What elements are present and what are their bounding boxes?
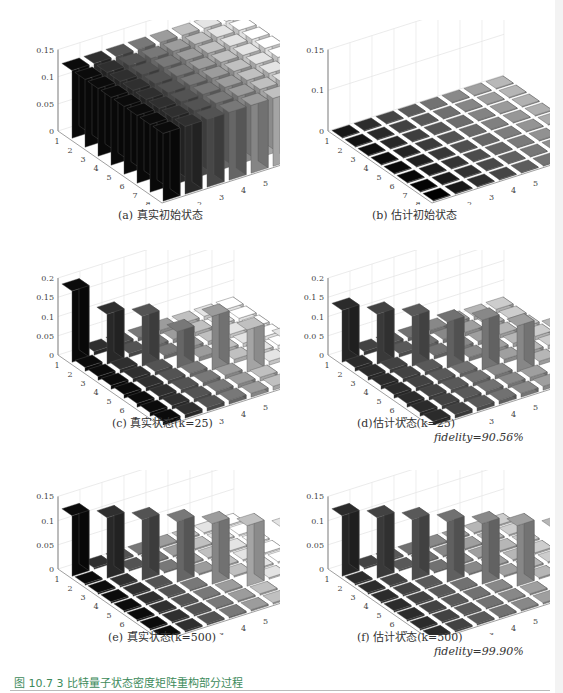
svg-text:0.1: 0.1 [311, 313, 324, 322]
svg-text:3: 3 [489, 193, 494, 202]
svg-text:0: 0 [319, 351, 324, 360]
svg-text:0.05: 0.05 [36, 541, 54, 550]
svg-text:3: 3 [219, 631, 224, 636]
svg-text:4: 4 [511, 410, 516, 419]
page-edge [555, 0, 563, 693]
subcaption-b: (b) 估计初始状态 [372, 206, 457, 222]
svg-text:3: 3 [81, 593, 86, 602]
svg-text:2: 2 [338, 146, 343, 155]
bars [332, 297, 550, 425]
svg-text:0: 0 [319, 127, 324, 136]
svg-text:1: 1 [55, 361, 60, 370]
svg-text:0.2: 0.2 [41, 274, 54, 283]
svg-text:0: 0 [49, 351, 54, 360]
svg-text:4: 4 [94, 164, 99, 173]
svg-text:0.15: 0.15 [36, 293, 54, 302]
svg-text:3: 3 [489, 417, 494, 426]
svg-text:2: 2 [68, 370, 73, 379]
svg-text:5: 5 [107, 173, 112, 182]
svg-text:5: 5 [533, 403, 538, 412]
svg-text:4: 4 [241, 624, 246, 633]
svg-text:5: 5 [263, 179, 268, 188]
svg-text:8: 8 [146, 200, 151, 206]
chart-panel-b: 00.10.151234567812345678 [300, 20, 550, 205]
bars [62, 20, 280, 201]
bar3d-chart-b: 00.10.151234567812345678 [300, 20, 550, 205]
svg-text:1: 1 [325, 575, 330, 584]
svg-text:2: 2 [467, 424, 472, 426]
svg-text:0.15: 0.15 [36, 46, 54, 55]
subcaption-e: (e) 真实状态(k=500) [108, 628, 216, 644]
bar3d-chart-e: 00.050.10.15123456781234567 [30, 470, 280, 635]
svg-text:3: 3 [219, 193, 224, 202]
svg-text:3: 3 [81, 155, 86, 164]
svg-text:3: 3 [351, 379, 356, 388]
svg-text:0.15: 0.15 [36, 492, 54, 501]
svg-text:7: 7 [403, 191, 408, 200]
svg-text:0.1: 0.1 [311, 86, 324, 95]
svg-text:4: 4 [511, 624, 516, 633]
svg-text:1: 1 [325, 361, 330, 370]
svg-text:3: 3 [219, 417, 224, 426]
svg-text:5: 5 [377, 397, 382, 406]
svg-text:5: 5 [263, 403, 268, 412]
svg-text:0.1: 0.1 [41, 517, 54, 526]
figure-caption: 图 10.7 3 比特量子状态密度矩阵重构部分过程 [14, 674, 243, 690]
svg-text:0.2: 0.2 [311, 274, 324, 283]
chart-panel-d: 00.0 50.10.1 50.21234567812345678 [300, 250, 550, 425]
svg-text:5: 5 [377, 173, 382, 182]
svg-text:0: 0 [49, 565, 54, 574]
svg-text:5: 5 [533, 617, 538, 626]
svg-text:0.15: 0.15 [306, 492, 324, 501]
svg-text:3: 3 [351, 155, 356, 164]
fidelity-f: fidelity=99.90% [434, 645, 524, 658]
svg-text:4: 4 [364, 164, 369, 173]
svg-text:0.15: 0.15 [306, 46, 324, 55]
svg-text:5: 5 [377, 611, 382, 620]
svg-text:3: 3 [489, 631, 494, 636]
chart-panel-e: 00.050.10.15123456781234567 [30, 470, 280, 635]
svg-text:0.1: 0.1 [41, 73, 54, 82]
bars [332, 503, 550, 635]
bars [62, 503, 280, 635]
svg-text:4: 4 [511, 186, 516, 195]
caption-rule [10, 690, 550, 691]
svg-text:0: 0 [49, 127, 54, 136]
svg-text:0.05: 0.05 [36, 332, 54, 341]
svg-text:1: 1 [55, 137, 60, 146]
bar3d-chart-d: 00.0 50.10.1 50.21234567812345678 [300, 250, 550, 425]
svg-text:6: 6 [390, 182, 395, 191]
subcaption-d: (d)估计状态(k=25) [357, 414, 455, 430]
svg-text:0.1 5: 0.1 5 [304, 293, 324, 302]
svg-text:5: 5 [533, 179, 538, 188]
svg-text:2: 2 [197, 200, 202, 206]
svg-text:0.1: 0.1 [41, 313, 54, 322]
svg-text:0.0 5: 0.0 5 [304, 332, 324, 341]
svg-text:2: 2 [338, 584, 343, 593]
subcaption-a: (a) 真实初始状态 [118, 206, 203, 222]
svg-text:4: 4 [364, 388, 369, 397]
svg-text:4: 4 [241, 410, 246, 419]
svg-text:4: 4 [94, 388, 99, 397]
chart-panel-f: 00.050.10.151234567812345678 [300, 470, 550, 635]
svg-text:2: 2 [68, 584, 73, 593]
bars [332, 72, 550, 201]
svg-text:7: 7 [133, 191, 138, 200]
subcaption-c: (c) 真实状态(k=25) [112, 414, 213, 430]
fidelity-d: fidelity=90.56% [434, 431, 524, 444]
svg-text:4: 4 [94, 602, 99, 611]
bar3d-chart-c: 00.050.10.150.21234567812345678 [30, 250, 280, 425]
svg-text:0.05: 0.05 [306, 541, 324, 550]
bars [62, 279, 280, 425]
svg-text:5: 5 [263, 617, 268, 626]
svg-text:0: 0 [319, 565, 324, 574]
subcaption-f: (f) 估计状态(k=500) [357, 628, 463, 644]
chart-panel-a: 00.050.10.151234567812345678 [30, 20, 280, 205]
svg-text:5: 5 [107, 397, 112, 406]
svg-text:4: 4 [241, 186, 246, 195]
bar3d-chart-a: 00.050.10.151234567812345678 [30, 20, 280, 205]
svg-text:6: 6 [120, 182, 125, 191]
svg-text:3: 3 [351, 593, 356, 602]
svg-text:0.1: 0.1 [311, 517, 324, 526]
svg-text:8: 8 [416, 200, 421, 206]
